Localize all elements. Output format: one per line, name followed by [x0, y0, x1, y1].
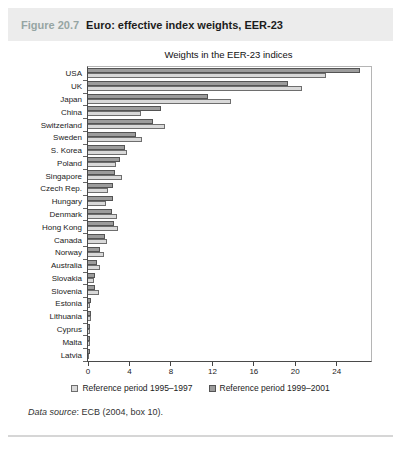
bar-group: Denmark [88, 208, 371, 221]
bar-group: Norway [88, 246, 371, 259]
category-label: Singapore [46, 171, 82, 180]
category-label: Canada [54, 235, 82, 244]
category-label: S. Korea [51, 146, 82, 155]
category-label: Malta [62, 337, 82, 346]
bar-1995-1997 [88, 188, 108, 193]
bar-group: Australia [88, 259, 371, 272]
bar-1995-1997 [88, 316, 91, 321]
bar-1995-1997 [88, 137, 142, 142]
category-label: Cyprus [57, 325, 82, 334]
legend-item-1995-1997: Reference period 1995–1997 [71, 383, 192, 393]
category-label: Switzerland [41, 120, 82, 129]
x-axis: 04812162024 [88, 361, 371, 379]
bar-group: Canada [88, 233, 371, 246]
figure-title: Euro: effective index weights, EER-23 [86, 19, 283, 31]
data-source-rest: : ECB (2004, box 10). [77, 407, 164, 417]
bar-group: Estonia [88, 297, 371, 310]
category-label: Poland [57, 158, 82, 167]
bar-group: USA [88, 67, 371, 80]
category-label: Estonia [55, 299, 82, 308]
legend-swatch-light-icon [71, 385, 78, 392]
figure-number-label: Figure 20.7 [21, 19, 79, 31]
data-source-prefix: Data source [28, 407, 77, 417]
bar-1995-1997 [88, 239, 107, 244]
category-label: Czech Rep. [40, 184, 82, 193]
bar-1995-1997 [88, 86, 302, 91]
bar-group: Hungary [88, 195, 371, 208]
category-label: Slovakia [52, 273, 82, 282]
legend-item-1999-2001: Reference period 1999–2001 [209, 383, 330, 393]
bar-1995-1997 [88, 252, 104, 257]
category-label: Slovenia [51, 286, 82, 295]
bar-1995-1997 [88, 329, 90, 334]
legend-swatch-dark-icon [209, 385, 216, 392]
category-label: UK [71, 82, 82, 91]
bar-1995-1997 [88, 278, 94, 283]
bar-1995-1997 [88, 354, 89, 359]
category-label: Norway [55, 248, 82, 257]
bar-1995-1997 [88, 226, 118, 231]
bar-group: Switzerland [88, 118, 371, 131]
bar-1995-1997 [88, 265, 100, 270]
bar-1995-1997 [88, 341, 90, 346]
category-label: Australia [51, 261, 82, 270]
category-label: Hong Kong [42, 222, 82, 231]
figure-page: Figure 20.7 Euro: effective index weight… [0, 0, 401, 453]
bar-group: Poland [88, 156, 371, 169]
bar-group: Latvia [88, 348, 371, 361]
category-label: Lithuania [50, 312, 82, 321]
bar-group: Hong Kong [88, 220, 371, 233]
category-label: Hungary [52, 197, 82, 206]
legend-label-1995-1997: Reference period 1995–1997 [82, 383, 192, 393]
bar-1995-1997 [88, 290, 99, 295]
bar-1995-1997 [88, 99, 231, 104]
chart-title: Weights in the EER-23 indices [87, 49, 370, 60]
bar-group: Malta [88, 335, 371, 348]
bar-1995-1997 [88, 201, 106, 206]
bar-1995-1997 [88, 73, 326, 78]
category-label: Sweden [53, 133, 82, 142]
bar-1995-1997 [88, 214, 117, 219]
legend-label-1999-2001: Reference period 1999–2001 [220, 383, 330, 393]
data-source-note: Data source: ECB (2004, box 10). [28, 407, 163, 417]
chart-legend: Reference period 1995–1997 Reference per… [8, 383, 393, 393]
bottom-divider [8, 435, 393, 437]
category-label: China [61, 107, 82, 116]
bar-group: Czech Rep. [88, 182, 371, 195]
bar-group: Lithuania [88, 310, 371, 323]
bar-1995-1997 [88, 162, 116, 167]
bar-1995-1997 [88, 150, 127, 155]
bar-group: UK [88, 80, 371, 93]
bar-group: Sweden [88, 131, 371, 144]
bar-group: Slovakia [88, 272, 371, 285]
category-label: Japan [60, 94, 82, 103]
figure-header: Figure 20.7 Euro: effective index weight… [8, 8, 393, 41]
bar-group: Slovenia [88, 284, 371, 297]
bar-1995-1997 [88, 124, 165, 129]
bar-1995-1997 [88, 111, 141, 116]
bar-group: S. Korea [88, 144, 371, 157]
bar-group: Singapore [88, 169, 371, 182]
plot-rows: USAUKJapanChinaSwitzerlandSwedenS. Korea… [88, 67, 371, 361]
bar-group: China [88, 105, 371, 118]
bar-group: Cyprus [88, 323, 371, 336]
plot-area: USAUKJapanChinaSwitzerlandSwedenS. Korea… [87, 66, 372, 362]
category-label: USA [66, 69, 82, 78]
bar-1995-1997 [88, 303, 90, 308]
bar-1995-1997 [88, 175, 122, 180]
category-label: Latvia [61, 350, 82, 359]
bar-group: Japan [88, 93, 371, 106]
category-label: Denmark [50, 209, 82, 218]
